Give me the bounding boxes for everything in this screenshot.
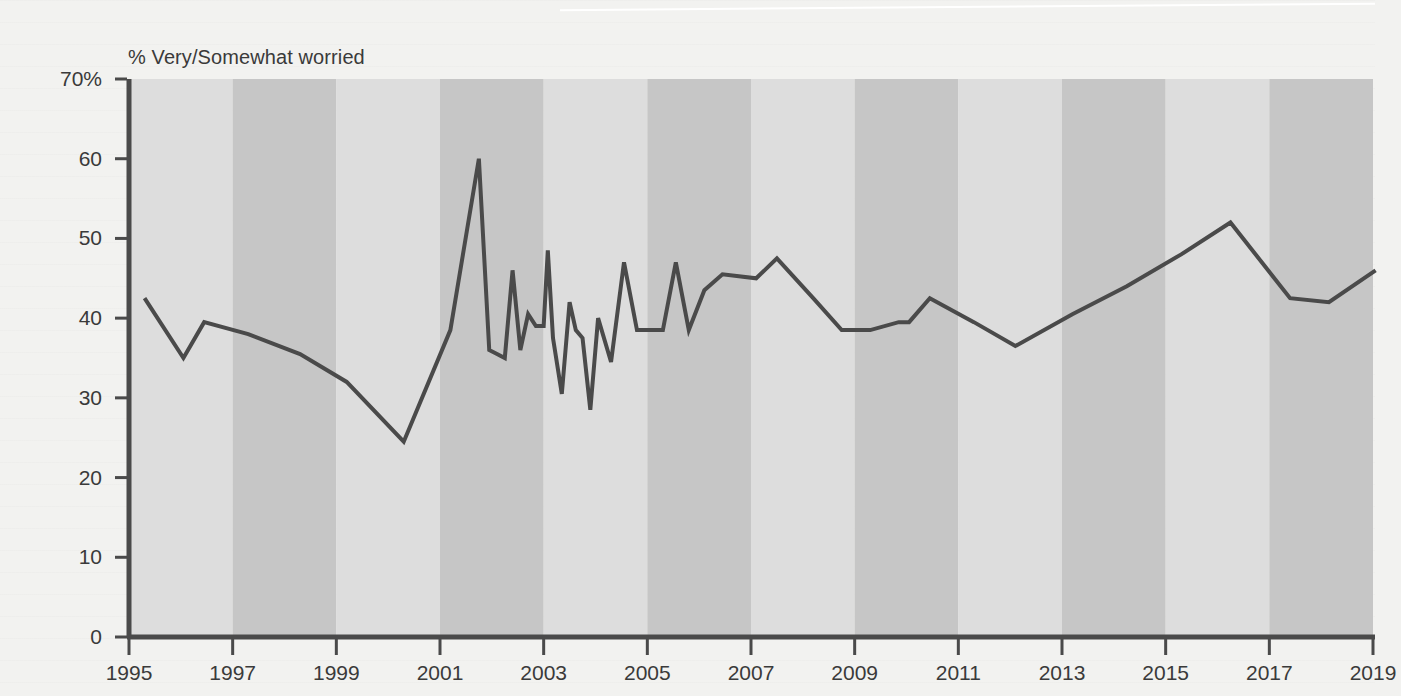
x-axis-tick-label: 2003 [520, 661, 567, 685]
x-axis-tick-label: 2017 [1246, 661, 1293, 685]
x-axis-tick-label: 2009 [831, 661, 878, 685]
x-axis-tick-label: 2011 [936, 661, 981, 685]
x-axis-tick-labels: 1995199719992001200320052007200920112013… [40, 16, 1401, 696]
x-axis-tick-label: 1997 [209, 661, 256, 685]
x-axis-tick-label: 1999 [313, 661, 360, 685]
page-scan-hairline [560, 3, 1375, 11]
x-axis-tick-label: 2007 [728, 661, 775, 685]
x-axis-tick-label: 2019 [1350, 661, 1397, 685]
x-axis-tick-label: 2013 [1039, 661, 1086, 685]
x-axis-tick-label: 2005 [624, 661, 671, 685]
x-axis-tick-label: 1995 [106, 661, 153, 685]
line-chart-figure: % Very/Somewhat worried 010203040506070%… [40, 16, 1335, 680]
x-axis-tick-label: 2015 [1142, 661, 1189, 685]
x-axis-tick-label: 2001 [417, 661, 464, 685]
